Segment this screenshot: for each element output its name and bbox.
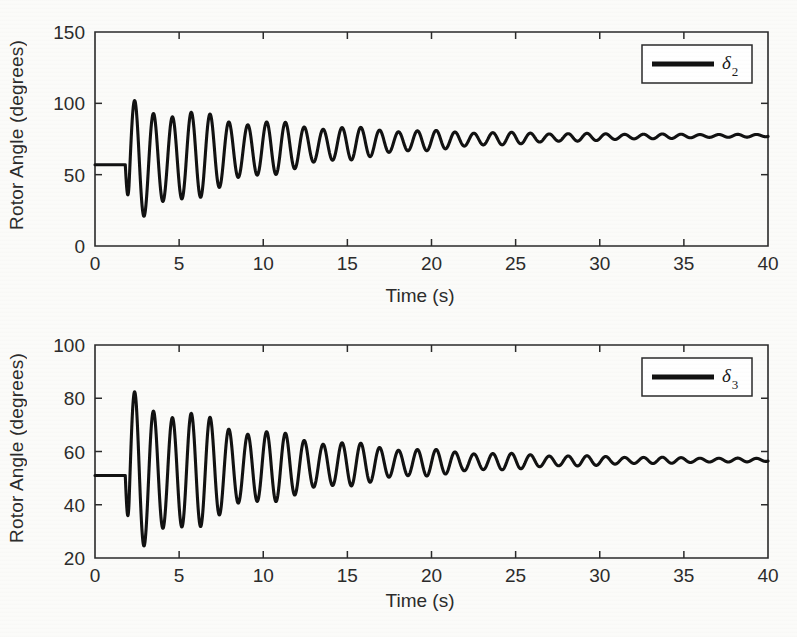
x-tick-label: 5	[174, 565, 185, 586]
data-trace-delta_3	[95, 392, 768, 546]
chart-panel-top: Rotor Angle (degrees) 051015202530354005…	[0, 0, 797, 318]
x-tick-label: 0	[90, 565, 101, 586]
x-axis-label-bottom: Time (s)	[340, 590, 500, 612]
x-tick-label: 10	[253, 565, 274, 586]
y-tick-label: 60	[64, 442, 85, 463]
x-axis-label-top: Time (s)	[340, 285, 500, 307]
x-tick-label: 30	[589, 253, 610, 274]
x-tick-label: 5	[174, 253, 185, 274]
x-tick-label: 40	[757, 565, 778, 586]
plot-area-top: 0510152025303540050100150δ2	[0, 0, 797, 318]
legend-label-subscript: 3	[732, 377, 739, 392]
x-tick-label: 35	[673, 253, 694, 274]
y-tick-label: 80	[64, 388, 85, 409]
y-tick-label: 40	[64, 495, 85, 516]
y-tick-label: 50	[64, 165, 85, 186]
x-tick-label: 20	[421, 565, 442, 586]
x-tick-label: 15	[337, 253, 358, 274]
x-tick-label: 20	[421, 253, 442, 274]
data-trace-delta_2	[95, 101, 768, 217]
y-tick-label: 100	[53, 93, 85, 114]
x-tick-label: 35	[673, 565, 694, 586]
x-tick-label: 0	[90, 253, 101, 274]
x-tick-label: 25	[505, 565, 526, 586]
x-tick-label: 30	[589, 565, 610, 586]
y-tick-label: 20	[64, 548, 85, 569]
x-tick-label: 40	[757, 253, 778, 274]
rotor-angle-figure: Rotor Angle (degrees) 051015202530354005…	[0, 0, 797, 637]
x-tick-label: 25	[505, 253, 526, 274]
y-tick-label: 100	[53, 335, 85, 356]
chart-panel-bottom: Rotor Angle (degrees) 051015202530354020…	[0, 318, 797, 637]
x-tick-label: 15	[337, 565, 358, 586]
y-tick-label: 0	[74, 236, 85, 257]
x-tick-label: 10	[253, 253, 274, 274]
y-tick-label: 150	[53, 22, 85, 43]
legend-label-subscript: 2	[732, 64, 739, 79]
